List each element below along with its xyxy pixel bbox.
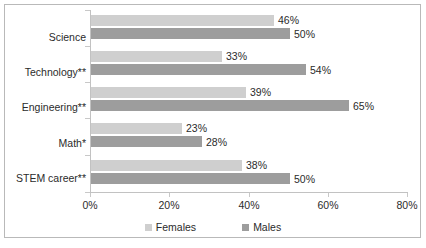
bar-value-females-technology: 33% [226,51,247,62]
x-axis-label-20: 20% [149,199,189,211]
bar-value-females-science: 46% [278,15,299,26]
chart-container: Science Technology** Engineering** Math*… [0,0,426,248]
bar-value-females-math: 23% [186,123,207,134]
bar-females-technology [91,51,222,62]
y-axis-tick [85,118,90,119]
bar-males-math [91,136,202,147]
x-axis-label-40: 40% [229,199,269,211]
x-axis-tick [249,193,250,197]
category-label-math: Math* [2,137,86,149]
bar-value-males-technology: 54% [310,65,331,76]
bar-females-science [91,15,274,26]
x-axis-tick [169,193,170,197]
bar-value-males-stem-career: 50% [294,174,315,185]
x-axis-tick [90,193,91,197]
legend-swatch-icon [145,224,152,231]
bar-males-technology [91,64,306,75]
bar-value-males-math: 28% [206,137,227,148]
legend-label-males: Males [253,222,281,233]
bar-value-females-engineering: 39% [250,87,271,98]
y-axis-tick [85,82,90,83]
bar-value-females-stem-career: 38% [246,160,267,171]
bar-females-stem-career [91,160,242,171]
bar-value-males-science: 50% [294,29,315,40]
y-axis-tick [85,46,90,47]
x-axis-label-60: 60% [308,199,348,211]
bar-males-stem-career [91,173,290,184]
bar-males-science [91,28,290,39]
legend-item-females[interactable]: Females [145,222,196,233]
category-label-engineering: Engineering** [2,101,86,113]
y-axis-tick [85,10,90,11]
legend-swatch-icon [242,224,249,231]
x-axis-tick [328,193,329,197]
x-axis-tick [407,193,408,197]
x-axis-label-0: 0% [70,199,110,211]
chart-legend: Females Males [0,222,426,233]
bar-females-math [91,123,182,134]
x-axis-label-80: 80% [387,199,426,211]
y-axis-tick [85,155,90,156]
legend-item-males[interactable]: Males [242,222,281,233]
bar-value-males-engineering: 65% [353,101,374,112]
category-label-technology: Technology** [2,66,86,78]
legend-label-females: Females [156,222,196,233]
bar-females-engineering [91,87,246,98]
category-label-stem-career: STEM career** [2,172,86,184]
bar-males-engineering [91,100,349,111]
category-label-science: Science [2,31,86,43]
